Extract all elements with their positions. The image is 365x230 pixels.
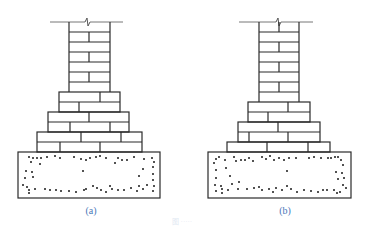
figure-label-b: (b) (279, 205, 291, 216)
brick-footing-diagram (0, 0, 365, 230)
figure-label-a: (a) (85, 205, 96, 216)
concrete-aggregate-b (213, 155, 347, 194)
concrete-aggregate-a (22, 155, 155, 194)
figure-caption: 图 ····· (172, 216, 192, 226)
figure-b (208, 18, 351, 198)
figure-a (18, 18, 160, 198)
